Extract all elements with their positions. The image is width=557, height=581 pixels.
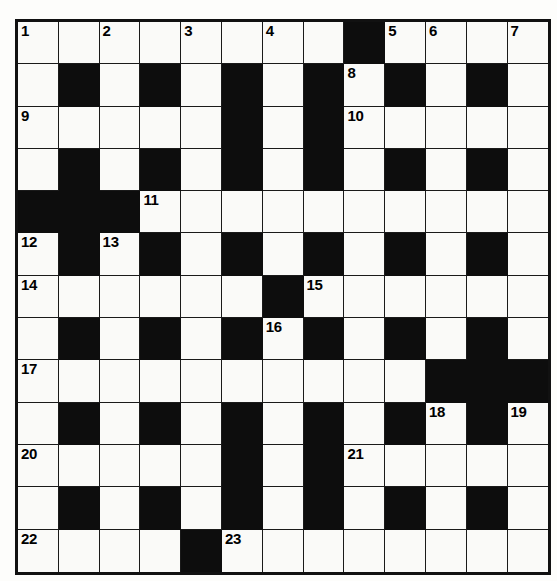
crossword-letter-cell[interactable]	[181, 149, 222, 191]
crossword-letter-cell[interactable]	[100, 149, 141, 191]
crossword-letter-cell[interactable]	[508, 276, 549, 318]
crossword-letter-cell[interactable]: 7	[508, 22, 549, 64]
crossword-letter-cell[interactable]	[467, 191, 508, 233]
crossword-letter-cell[interactable]	[508, 107, 549, 149]
crossword-letter-cell[interactable]	[18, 64, 59, 106]
crossword-letter-cell[interactable]	[100, 360, 141, 402]
crossword-letter-cell[interactable]	[467, 276, 508, 318]
crossword-letter-cell[interactable]	[263, 445, 304, 487]
crossword-letter-cell[interactable]	[100, 403, 141, 445]
crossword-letter-cell[interactable]: 13	[100, 233, 141, 275]
crossword-letter-cell[interactable]	[426, 445, 467, 487]
crossword-letter-cell[interactable]	[344, 487, 385, 529]
crossword-letter-cell[interactable]: 15	[304, 276, 345, 318]
crossword-letter-cell[interactable]	[181, 445, 222, 487]
crossword-letter-cell[interactable]	[508, 64, 549, 106]
crossword-letter-cell[interactable]: 6	[426, 22, 467, 64]
crossword-letter-cell[interactable]	[181, 318, 222, 360]
crossword-letter-cell[interactable]: 1	[18, 22, 59, 64]
crossword-grid[interactable]: 1234567891011121314151617181920212223	[15, 19, 551, 575]
crossword-letter-cell[interactable]	[59, 530, 100, 572]
crossword-letter-cell[interactable]	[59, 22, 100, 64]
crossword-letter-cell[interactable]	[508, 149, 549, 191]
crossword-letter-cell[interactable]	[222, 360, 263, 402]
crossword-letter-cell[interactable]: 20	[18, 445, 59, 487]
crossword-letter-cell[interactable]	[140, 107, 181, 149]
crossword-letter-cell[interactable]	[59, 360, 100, 402]
crossword-letter-cell[interactable]	[263, 107, 304, 149]
crossword-letter-cell[interactable]: 22	[18, 530, 59, 572]
crossword-letter-cell[interactable]	[18, 149, 59, 191]
crossword-letter-cell[interactable]	[18, 487, 59, 529]
crossword-letter-cell[interactable]: 21	[344, 445, 385, 487]
crossword-letter-cell[interactable]	[467, 445, 508, 487]
crossword-letter-cell[interactable]	[100, 318, 141, 360]
crossword-letter-cell[interactable]	[222, 22, 263, 64]
crossword-letter-cell[interactable]: 10	[344, 107, 385, 149]
crossword-letter-cell[interactable]	[181, 487, 222, 529]
crossword-letter-cell[interactable]	[304, 191, 345, 233]
crossword-letter-cell[interactable]	[344, 191, 385, 233]
crossword-letter-cell[interactable]	[426, 149, 467, 191]
crossword-letter-cell[interactable]	[59, 445, 100, 487]
crossword-letter-cell[interactable]	[385, 107, 426, 149]
crossword-letter-cell[interactable]	[181, 64, 222, 106]
crossword-letter-cell[interactable]	[181, 403, 222, 445]
crossword-letter-cell[interactable]	[508, 191, 549, 233]
crossword-letter-cell[interactable]	[385, 276, 426, 318]
crossword-letter-cell[interactable]	[100, 276, 141, 318]
crossword-letter-cell[interactable]	[385, 191, 426, 233]
crossword-letter-cell[interactable]	[263, 233, 304, 275]
crossword-letter-cell[interactable]	[181, 360, 222, 402]
crossword-letter-cell[interactable]	[426, 530, 467, 572]
crossword-letter-cell[interactable]	[344, 149, 385, 191]
crossword-letter-cell[interactable]	[181, 233, 222, 275]
crossword-letter-cell[interactable]	[18, 403, 59, 445]
crossword-letter-cell[interactable]	[344, 360, 385, 402]
crossword-letter-cell[interactable]	[263, 403, 304, 445]
crossword-letter-cell[interactable]	[385, 445, 426, 487]
crossword-letter-cell[interactable]	[304, 360, 345, 402]
crossword-letter-cell[interactable]	[263, 64, 304, 106]
crossword-letter-cell[interactable]	[222, 276, 263, 318]
crossword-letter-cell[interactable]	[344, 530, 385, 572]
crossword-letter-cell[interactable]	[181, 191, 222, 233]
crossword-letter-cell[interactable]	[304, 530, 345, 572]
crossword-letter-cell[interactable]	[426, 276, 467, 318]
crossword-letter-cell[interactable]	[222, 191, 263, 233]
crossword-letter-cell[interactable]	[140, 22, 181, 64]
crossword-letter-cell[interactable]	[508, 445, 549, 487]
crossword-letter-cell[interactable]	[426, 233, 467, 275]
crossword-letter-cell[interactable]	[508, 233, 549, 275]
crossword-letter-cell[interactable]: 18	[426, 403, 467, 445]
crossword-letter-cell[interactable]	[426, 107, 467, 149]
crossword-letter-cell[interactable]: 11	[140, 191, 181, 233]
crossword-letter-cell[interactable]: 17	[18, 360, 59, 402]
crossword-letter-cell[interactable]	[385, 530, 426, 572]
crossword-letter-cell[interactable]	[181, 107, 222, 149]
crossword-letter-cell[interactable]: 8	[344, 64, 385, 106]
crossword-letter-cell[interactable]	[385, 360, 426, 402]
crossword-letter-cell[interactable]	[140, 276, 181, 318]
crossword-letter-cell[interactable]: 3	[181, 22, 222, 64]
crossword-letter-cell[interactable]: 16	[263, 318, 304, 360]
crossword-letter-cell[interactable]	[18, 318, 59, 360]
crossword-letter-cell[interactable]	[263, 360, 304, 402]
crossword-letter-cell[interactable]	[263, 530, 304, 572]
crossword-letter-cell[interactable]: 12	[18, 233, 59, 275]
crossword-letter-cell[interactable]	[59, 276, 100, 318]
crossword-letter-cell[interactable]	[344, 276, 385, 318]
crossword-letter-cell[interactable]: 5	[385, 22, 426, 64]
crossword-letter-cell[interactable]: 2	[100, 22, 141, 64]
crossword-letter-cell[interactable]	[263, 149, 304, 191]
crossword-letter-cell[interactable]: 23	[222, 530, 263, 572]
crossword-letter-cell[interactable]	[426, 64, 467, 106]
crossword-letter-cell[interactable]	[140, 360, 181, 402]
crossword-letter-cell[interactable]	[100, 530, 141, 572]
crossword-letter-cell[interactable]	[467, 530, 508, 572]
crossword-letter-cell[interactable]	[100, 64, 141, 106]
crossword-letter-cell[interactable]	[181, 276, 222, 318]
crossword-letter-cell[interactable]	[467, 22, 508, 64]
crossword-letter-cell[interactable]: 14	[18, 276, 59, 318]
crossword-letter-cell[interactable]	[508, 530, 549, 572]
